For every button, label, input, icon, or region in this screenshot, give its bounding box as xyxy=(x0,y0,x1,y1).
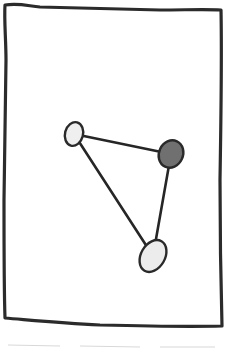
edge-node-a-node-b xyxy=(74,134,171,154)
node-b xyxy=(154,136,188,172)
scan-artifact xyxy=(8,345,215,347)
graph-sketch-canvas xyxy=(0,0,230,356)
sketch-frame xyxy=(4,4,222,326)
node-a xyxy=(62,120,86,148)
edge-group xyxy=(74,134,171,256)
edge-node-a-node-c xyxy=(74,134,153,256)
node-c xyxy=(134,235,172,276)
